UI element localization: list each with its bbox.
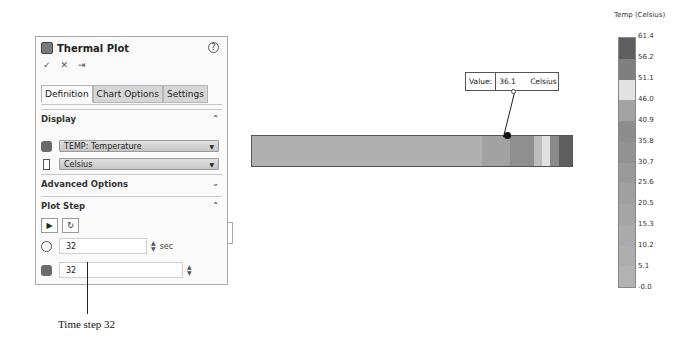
- plot-step-section: Plot Step⌃: [41, 196, 222, 211]
- bar-segment: [550, 136, 559, 166]
- legend-tick-label: 5.1: [638, 262, 649, 270]
- tab-settings[interactable]: Settings: [163, 85, 208, 103]
- legend-color-band: [619, 246, 635, 267]
- legend-title: Temp (Celsius): [614, 11, 665, 19]
- annotation-leader-line: [87, 262, 88, 314]
- tab-definition[interactable]: Definition: [41, 85, 93, 103]
- legend-color-band: [619, 80, 635, 101]
- legend-color-band: [619, 163, 635, 184]
- legend-color-band: [619, 204, 635, 225]
- dropdown-arrow-icon: ▼: [209, 143, 214, 150]
- legend-color-band: [619, 266, 635, 287]
- quantity-dropdown[interactable]: TEMP: Temperature▼: [59, 140, 219, 152]
- legend-color-band: [619, 183, 635, 204]
- expand-icon[interactable]: ⌄: [212, 179, 219, 189]
- time-spinner[interactable]: ▲▼: [151, 240, 156, 252]
- legend-tick-label: 56.2: [638, 53, 654, 61]
- advanced-options-header[interactable]: Advanced Options: [41, 179, 128, 189]
- bar-segment: [252, 136, 482, 166]
- clock-icon: [41, 241, 52, 252]
- units-dropdown[interactable]: Celsius▼: [59, 158, 219, 170]
- help-icon[interactable]: ?: [208, 42, 219, 53]
- dropdown-arrow-icon: ▼: [209, 161, 214, 168]
- plot-step-header[interactable]: Plot Step: [41, 201, 85, 211]
- step-icon: [41, 265, 52, 276]
- legend-tick-label: 35.8: [638, 137, 654, 145]
- display-header[interactable]: Display: [41, 114, 76, 124]
- play-step-button[interactable]: ▶: [41, 218, 58, 233]
- display-section: Display⌃: [41, 109, 222, 124]
- bar-segment: [534, 136, 542, 166]
- legend-tick-label: -0.0: [638, 283, 652, 291]
- legend-tick-label: 30.7: [638, 158, 654, 166]
- panel-resize-handle[interactable]: [228, 222, 233, 244]
- legend-tick-label: 40.9: [638, 116, 654, 124]
- collapse-icon[interactable]: ⌃: [212, 114, 219, 124]
- pin-button[interactable]: ⇥: [78, 60, 86, 70]
- bar-segment: [559, 136, 572, 166]
- legend-tick-label: 15.3: [638, 220, 654, 228]
- annotation-caption: Time step 32: [58, 318, 115, 330]
- collapse-icon[interactable]: ⌃: [212, 201, 219, 211]
- time-input[interactable]: 32: [59, 238, 147, 254]
- probe-leader-line: [503, 93, 515, 137]
- legend-tick-label: 25.6: [638, 178, 654, 186]
- quantity-icon: [41, 141, 52, 152]
- legend-color-band: [619, 121, 635, 142]
- legend-color-band: [619, 100, 635, 121]
- units-icon: [43, 159, 50, 170]
- color-legend: [618, 37, 636, 288]
- legend-color-band: [619, 225, 635, 246]
- legend-tick-label: 20.5: [638, 199, 654, 207]
- tab-bar: Definition Chart Options Settings: [41, 85, 208, 103]
- legend-color-band: [619, 59, 635, 80]
- legend-tick-label: 46.0: [638, 95, 654, 103]
- cancel-button[interactable]: ✕: [61, 60, 69, 70]
- step-spinner[interactable]: ▲▼: [187, 264, 192, 276]
- legend-tick-label: 10.2: [638, 241, 654, 249]
- legend-tick-label: 51.1: [638, 74, 654, 82]
- legend-color-band: [619, 38, 635, 59]
- thermal-plot-icon: [41, 42, 53, 54]
- ok-button[interactable]: ✓: [43, 60, 51, 70]
- thermal-plot-panel: Thermal Plot ? ✓ ✕ ⇥ Definition Chart Op…: [35, 36, 228, 285]
- bar-segment: [542, 136, 550, 166]
- legend-tick-label: 61.4: [638, 32, 654, 40]
- panel-title: Thermal Plot: [41, 42, 129, 54]
- tab-chart-options[interactable]: Chart Options: [93, 85, 163, 103]
- bar-segment: [510, 136, 534, 166]
- step-input[interactable]: 32: [59, 262, 183, 278]
- bar-segment: [482, 136, 510, 166]
- probe-point[interactable]: [504, 132, 511, 139]
- thermal-bar[interactable]: [251, 135, 573, 167]
- advanced-options-section: Advanced Options⌄: [41, 174, 222, 189]
- legend-color-band: [619, 142, 635, 163]
- loop-button[interactable]: ↻: [62, 218, 79, 233]
